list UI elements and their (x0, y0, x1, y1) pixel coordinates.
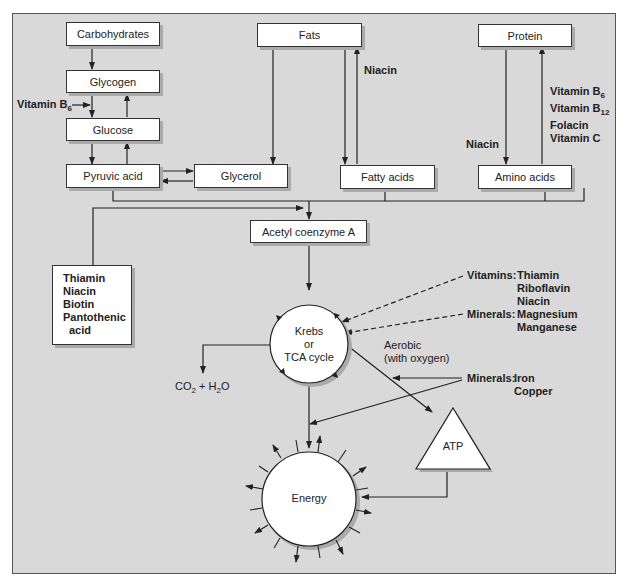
atp-minerals-list: IronCopper (514, 372, 553, 398)
carbohydrates-node: Carbohydrates (66, 22, 160, 46)
cofactor-thiamin: Thiamin (63, 272, 131, 285)
energy-label: Energy (262, 492, 356, 505)
pyruvic-acid-node: Pyruvic acid (66, 164, 160, 188)
protein-node: Protein (478, 24, 572, 47)
cofactors-box: Thiamin Niacin Biotin Pantothenic acid (52, 265, 132, 345)
krebs-minerals-heading: Minerals: (467, 308, 515, 321)
krebs-cycle-label: KrebsorTCA cycle (270, 325, 348, 364)
krebs-vitamins-heading: Vitamins: (467, 269, 516, 282)
amino-acids-node: Amino acids (478, 165, 572, 189)
fats-node: Fats (257, 23, 362, 47)
cofactor-niacin: Niacin (63, 285, 131, 298)
glucose-node: Glucose (66, 118, 160, 141)
niacin-protein-label: Niacin (466, 138, 499, 151)
krebs-minerals-list: MagnesiumManganese (517, 308, 578, 334)
fatty-acids-node: Fatty acids (340, 165, 435, 189)
atp-triangle (416, 408, 490, 469)
co2-h2o-label: CO2 + H2O (175, 380, 229, 397)
cofactor-pantothenic: Pantothenic (63, 311, 131, 324)
acetyl-coa-node: Acetyl coenzyme A (250, 220, 367, 243)
glycogen-node: Glycogen (66, 70, 160, 93)
glycerol-node: Glycerol (194, 164, 288, 188)
vitamin-b6-label: Vitamin B6 (17, 98, 72, 115)
atp-label: ATP (428, 440, 478, 453)
aerobic-label: Aerobic(with oxygen) (384, 339, 449, 365)
krebs-vitamins-list: ThiaminRiboflavinNiacin (517, 269, 570, 308)
cofactor-biotin: Biotin (63, 298, 131, 311)
cofactor-acid: acid (63, 324, 131, 337)
niacin-fats-label: Niacin (364, 64, 397, 77)
atp-minerals-heading: Minerals: (467, 372, 515, 385)
protein-vitamins-list: Vitamin B6 Vitamin B12 Folacin Vitamin C (550, 85, 609, 145)
